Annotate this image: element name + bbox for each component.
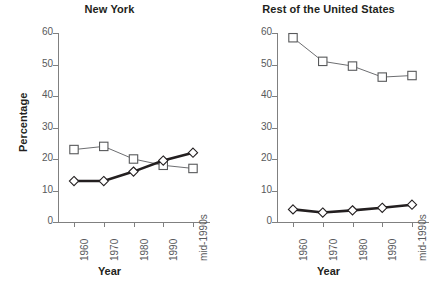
data-point-diamond bbox=[188, 148, 197, 157]
y-tick-mark bbox=[272, 65, 277, 66]
y-tick-mark bbox=[272, 159, 277, 160]
data-point-diamond bbox=[407, 200, 416, 209]
data-point-square bbox=[348, 62, 356, 70]
data-point-square bbox=[408, 71, 416, 79]
y-tick-mark bbox=[53, 96, 58, 97]
data-point-diamond bbox=[129, 167, 138, 176]
y-tick-mark bbox=[53, 65, 58, 66]
data-point-diamond bbox=[99, 176, 108, 185]
figure-canvas: New York Percentage 0102030405060 196019… bbox=[0, 0, 438, 298]
x-axis-label-rest-of-us: Year bbox=[219, 265, 438, 277]
data-point-square bbox=[319, 57, 327, 65]
y-tick-mark bbox=[53, 33, 58, 34]
y-tick-mark bbox=[53, 128, 58, 129]
series-layer-rest-of-us bbox=[219, 0, 438, 298]
y-tick-mark bbox=[272, 191, 277, 192]
data-point-square bbox=[70, 145, 78, 153]
x-axis-label-new-york: Year bbox=[0, 265, 219, 277]
data-point-diamond bbox=[69, 176, 78, 185]
data-point-square bbox=[129, 155, 137, 163]
data-point-square bbox=[378, 73, 386, 81]
y-tick-mark bbox=[272, 222, 277, 223]
y-tick-mark bbox=[272, 33, 277, 34]
data-point-square bbox=[289, 34, 297, 42]
y-tick-mark bbox=[272, 128, 277, 129]
data-point-square bbox=[100, 142, 108, 150]
chart-panel-new-york: New York Percentage 0102030405060 196019… bbox=[0, 0, 219, 298]
y-tick-mark bbox=[272, 96, 277, 97]
data-point-diamond bbox=[348, 206, 357, 215]
series-line-square-series bbox=[293, 38, 412, 77]
data-point-diamond bbox=[318, 208, 327, 217]
y-tick-mark bbox=[53, 159, 58, 160]
y-tick-mark bbox=[53, 222, 58, 223]
data-point-diamond bbox=[378, 203, 387, 212]
data-point-diamond bbox=[288, 205, 297, 214]
data-point-square bbox=[189, 164, 197, 172]
series-layer-new-york bbox=[0, 0, 219, 298]
chart-panel-rest-of-us: Rest of the United States Percentage 010… bbox=[219, 0, 438, 298]
y-tick-mark bbox=[53, 191, 58, 192]
